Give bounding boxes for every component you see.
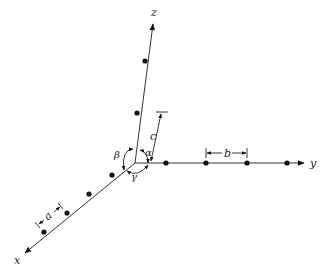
x-lattice-point <box>109 172 114 177</box>
y-axis-label: y <box>309 157 317 170</box>
x-lattice-point <box>86 191 91 196</box>
y-lattice-point <box>244 160 249 165</box>
x-lattice-point <box>41 229 46 234</box>
x-axis: x <box>14 163 135 267</box>
c-label: c <box>150 130 156 143</box>
lattice-axes-diagram: z y x c b a <box>0 0 325 272</box>
dimension-b: b <box>206 147 247 160</box>
x-axis-label: x <box>14 254 21 267</box>
x-lattice-point <box>64 210 69 215</box>
y-lattice-point <box>163 160 168 165</box>
z-lattice-point <box>142 58 147 63</box>
beta-label: β <box>113 149 120 160</box>
alpha-label: α <box>145 147 152 158</box>
dimension-c: c <box>150 112 168 161</box>
y-lattice-point <box>203 160 208 165</box>
b-label: b <box>224 147 231 160</box>
dimension-a: a <box>35 203 63 228</box>
z-axis-label: z <box>150 6 157 19</box>
z-lattice-point <box>134 110 139 115</box>
gamma-label: γ <box>131 171 137 182</box>
a-label: a <box>41 209 54 223</box>
y-lattice-point <box>284 160 289 165</box>
